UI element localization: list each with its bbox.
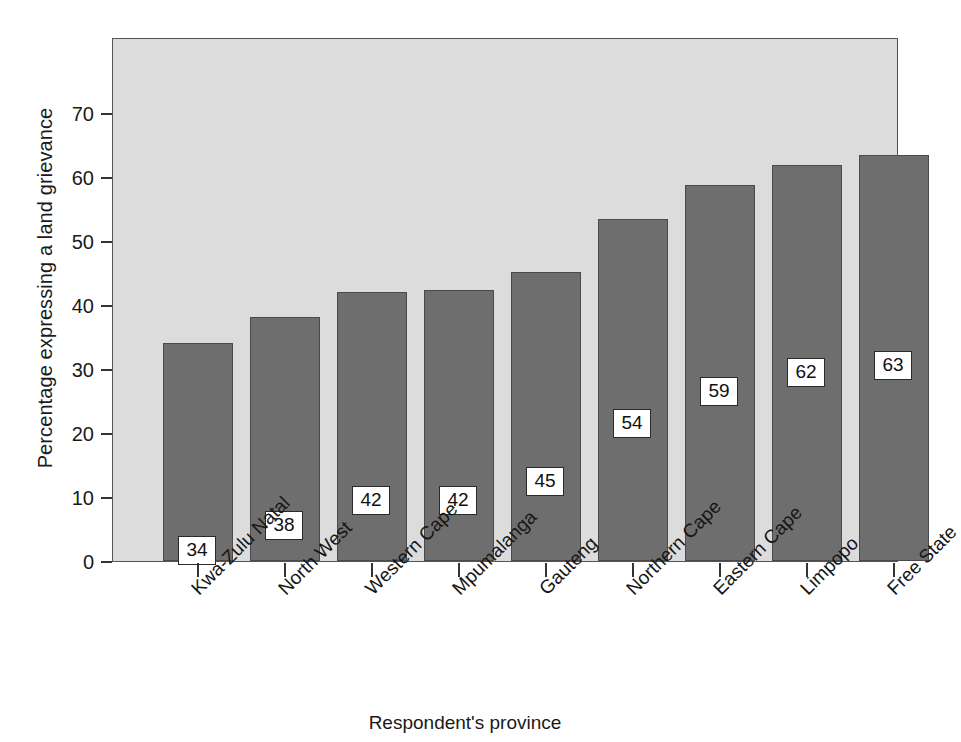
y-tick-label: 30 <box>34 360 94 380</box>
y-tick-mark <box>101 369 112 371</box>
y-tick-mark <box>101 177 112 179</box>
y-tick-label: 50 <box>34 232 94 252</box>
y-tick-label: 70 <box>34 104 94 124</box>
y-tick-label: 60 <box>34 168 94 188</box>
y-tick-mark <box>101 305 112 307</box>
bar-value-label: 54 <box>613 409 651 438</box>
bar-value-label: 63 <box>874 351 912 380</box>
y-tick-label: 40 <box>34 296 94 316</box>
y-tick-label: 10 <box>34 488 94 508</box>
bar-value-label: 45 <box>526 467 564 496</box>
y-tick-mark <box>101 113 112 115</box>
plot-area <box>112 38 898 562</box>
y-tick-label: 0 <box>34 552 94 572</box>
y-tick-label: 20 <box>34 424 94 444</box>
bar <box>685 185 755 561</box>
bar <box>163 343 233 561</box>
x-axis-title: Respondent's province <box>0 712 930 734</box>
y-tick-mark <box>101 561 112 563</box>
bar-value-label: 42 <box>352 486 390 515</box>
bar-value-label: 62 <box>787 358 825 387</box>
bar <box>598 219 668 561</box>
bar-value-label: 59 <box>700 377 738 406</box>
bar <box>337 292 407 561</box>
y-tick-mark <box>101 433 112 435</box>
y-tick-mark <box>101 497 112 499</box>
y-tick-mark <box>101 241 112 243</box>
